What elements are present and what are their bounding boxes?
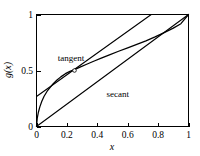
y-tick-label-0: 0 [28,122,33,132]
annotation-secant: secant [106,89,129,99]
y-tick-label-1: 0.5 [21,66,33,76]
x-tick-label-4: 0.8 [152,130,164,140]
x-axis-tick-labels: 00.20.40.60.81 [34,130,191,140]
x-tick-label-0: 0 [34,130,39,140]
tangency-point-marker [73,69,77,73]
plot-canvas: 00.20.40.60.81 00.51 tangentsecant x g(x… [0,0,200,156]
data-markers-group [73,69,77,73]
x-tick-label-5: 1 [186,130,191,140]
x-tick-label-2: 0.4 [91,130,103,140]
x-tick-label-3: 0.6 [122,130,134,140]
annotation-tangent: tangent [58,53,85,63]
data-series-group [37,15,189,127]
y-axis-title: g(x) [2,61,14,78]
y-axis-tick-labels: 00.51 [21,10,33,132]
series-secant [37,15,189,127]
chart-annotations: tangentsecant [58,53,130,99]
y-tick-label-2: 1 [28,10,33,20]
chart-figure: 00.20.40.60.81 00.51 tangentsecant x g(x… [0,0,200,156]
x-axis-title: x [109,141,115,152]
x-tick-label-1: 0.2 [61,130,73,140]
x-axis-ticks [38,123,190,127]
